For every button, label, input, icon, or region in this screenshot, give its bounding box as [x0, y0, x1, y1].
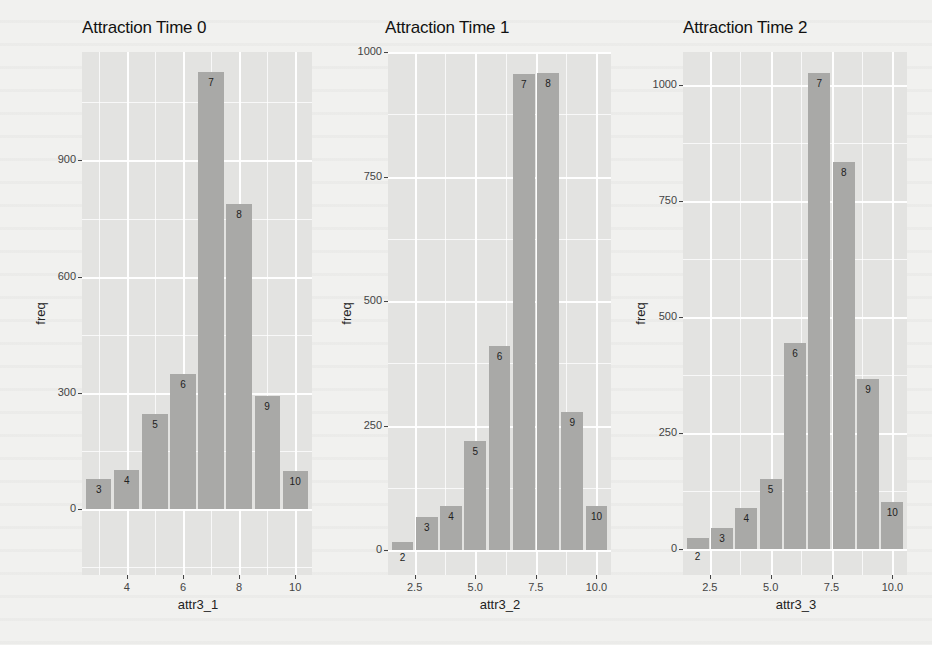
- bar-value-label: 2: [687, 551, 709, 562]
- bar-value-label: 8: [833, 167, 855, 178]
- bar: 8: [833, 162, 855, 550]
- x-tick-mark: [771, 575, 772, 579]
- chart-attraction-time-2: Attraction Time 2 freq attr3_3 234567891…: [0, 0, 932, 645]
- gridline-horizontal: [683, 317, 907, 319]
- gridline-horizontal: [683, 143, 907, 144]
- y-tick-mark: [679, 201, 683, 202]
- y-tick-mark: [679, 85, 683, 86]
- gridline-horizontal: [683, 549, 907, 551]
- bar: 7: [808, 73, 830, 549]
- y-tick-label: 500: [637, 310, 677, 322]
- gridline-horizontal: [683, 201, 907, 203]
- x-axis-label: attr3_3: [746, 597, 846, 612]
- bar-value-label: 7: [808, 78, 830, 89]
- bar: 3: [711, 528, 733, 550]
- x-tick-mark: [710, 575, 711, 579]
- x-tick-mark: [892, 575, 893, 579]
- bar-value-label: 10: [881, 507, 903, 518]
- gridline-vertical: [740, 52, 741, 575]
- bar: 6: [784, 343, 806, 549]
- x-tick-label: 5.0: [751, 581, 791, 593]
- y-tick-mark: [679, 433, 683, 434]
- bar: 5: [760, 479, 782, 549]
- bar-value-label: 4: [735, 513, 757, 524]
- x-tick-mark: [832, 575, 833, 579]
- bar-value-label: 6: [784, 348, 806, 359]
- y-tick-mark: [679, 549, 683, 550]
- y-tick-label: 250: [637, 426, 677, 438]
- bar: 9: [857, 379, 879, 549]
- y-tick-label: 0: [637, 542, 677, 554]
- x-tick-label: 7.5: [812, 581, 852, 593]
- y-tick-label: 1000: [637, 78, 677, 90]
- gridline-vertical: [710, 52, 712, 575]
- x-tick-label: 2.5: [690, 581, 730, 593]
- gridline-vertical: [892, 52, 894, 575]
- bar-value-label: 5: [760, 484, 782, 495]
- plot-panel: 2345678910: [683, 52, 907, 575]
- x-tick-label: 10.0: [872, 581, 912, 593]
- bar-value-label: 9: [857, 384, 879, 395]
- bar-value-label: 3: [711, 533, 733, 544]
- y-tick-label: 750: [637, 194, 677, 206]
- bar: 2: [687, 538, 709, 549]
- y-tick-mark: [679, 317, 683, 318]
- gridline-horizontal: [683, 85, 907, 87]
- bar: 10: [881, 502, 903, 550]
- gridline-horizontal: [683, 259, 907, 260]
- chart-title: Attraction Time 2: [683, 18, 807, 38]
- bar: 4: [735, 508, 757, 550]
